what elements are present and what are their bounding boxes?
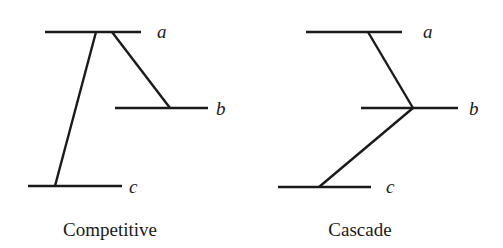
competitive-diagram: a b c Competitive <box>28 21 226 240</box>
cascade-diagram: a b c Cascade <box>278 21 479 240</box>
transition-b-to-c <box>319 108 413 187</box>
level-c-label: c <box>386 176 395 197</box>
level-a-label: a <box>157 21 167 42</box>
transition-a-to-c <box>55 32 96 186</box>
transition-a-to-b <box>368 32 413 108</box>
level-b-label: b <box>469 98 479 119</box>
transition-a-to-b <box>112 32 170 108</box>
level-c-label: c <box>129 176 138 197</box>
competitive-caption: Competitive <box>63 219 157 240</box>
cascade-caption: Cascade <box>328 219 391 240</box>
level-b-label: b <box>216 98 226 119</box>
level-a-label: a <box>423 21 433 42</box>
energy-level-diagrams: a b c Competitive a b c Cascade <box>0 0 503 248</box>
